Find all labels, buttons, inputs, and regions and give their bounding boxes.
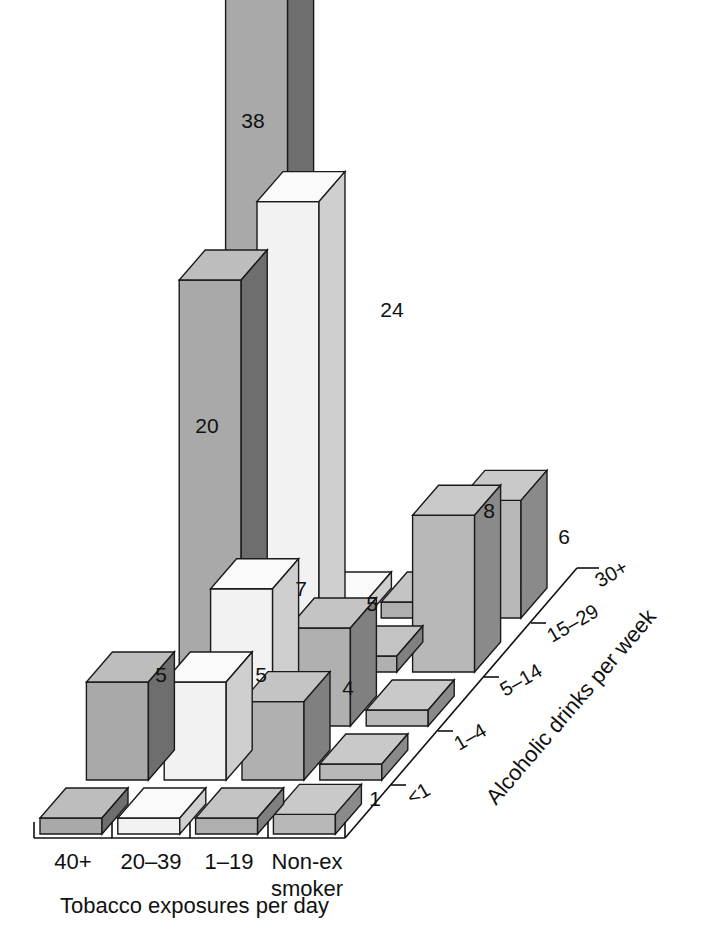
bar-face-side (319, 172, 345, 672)
bar-40-1 (40, 788, 128, 834)
bar-2039-14 (164, 652, 252, 780)
x-axis-title: Tobacco exposures per day (60, 893, 329, 918)
bar-face-front (320, 764, 382, 780)
bar-value-1: 1 (369, 787, 381, 810)
z-tick-label-lt1: <1 (403, 778, 434, 808)
bar-face-front (86, 682, 148, 780)
bar-Nonexsmoker-1 (273, 784, 361, 834)
bar-119-14 (242, 672, 330, 780)
bar-value-38: 38 (241, 109, 264, 132)
bar-Nonexsmoker-514 (366, 680, 454, 726)
x-tick-label-20-39: 20–39 (120, 849, 181, 874)
z-tick-label-1-4: 1–4 (450, 719, 490, 755)
bar-value-4: 4 (342, 676, 354, 699)
bars-layer (40, 0, 547, 834)
z-tick-label-5-14: 5–14 (496, 659, 546, 700)
bar-2039-1 (118, 788, 206, 834)
bar-face-front (40, 818, 102, 834)
bar-Nonexsmoker-14 (320, 734, 408, 780)
z-tick-label-15-29: 15–29 (543, 600, 602, 647)
bar-face-front (413, 515, 475, 672)
bar-face-front (366, 710, 428, 726)
bar-value-7: 7 (295, 577, 307, 600)
x-tick-label-40plus: 40+ (54, 849, 91, 874)
z-tick-label-30plus: 30+ (591, 555, 631, 591)
bar-value-6: 6 (558, 525, 570, 548)
bar-face-front (273, 814, 335, 834)
bar-value-8: 8 (483, 499, 495, 522)
bar-119-1 (196, 788, 284, 834)
x-tick-label-1-19: 1–19 (205, 849, 254, 874)
chart-root: 38 24 20 7 8 6 5 5 5 4 1 40+ 20–39 1–19 … (0, 0, 702, 934)
bar-chart-3d: 38 24 20 7 8 6 5 5 5 4 1 40+ 20–39 1–19 … (0, 0, 702, 934)
bar-value-20: 20 (195, 414, 218, 437)
bar-value-5-2039: 5 (255, 663, 267, 686)
bar-face-front (196, 818, 258, 834)
bar-value-5-nonex: 5 (366, 592, 378, 615)
bar-value-24: 24 (380, 298, 404, 321)
bar-face-front (118, 818, 180, 834)
bar-value-5-40plus: 5 (155, 663, 167, 686)
x-tick-label-nonex: Non-ex (272, 849, 343, 874)
